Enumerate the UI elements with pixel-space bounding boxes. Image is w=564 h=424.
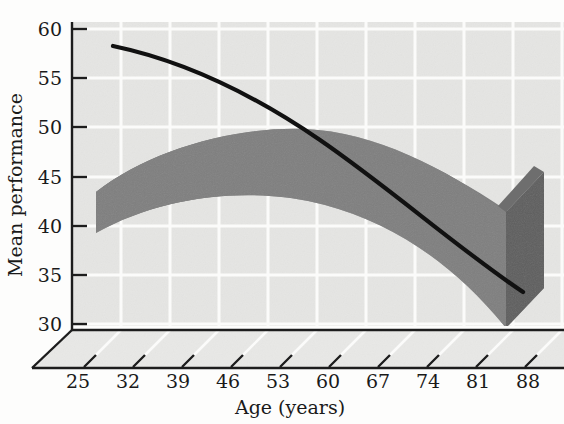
x-axis-title: Age (years) xyxy=(234,396,345,418)
y-tick-label: 50 xyxy=(38,116,62,138)
x-tick-labels: 25 32 39 46 53 60 67 74 81 88 xyxy=(66,370,540,392)
x-tick-label: 67 xyxy=(366,370,390,392)
x-tick-label: 74 xyxy=(416,370,440,392)
x-tick-label: 39 xyxy=(166,370,190,392)
floor-plane xyxy=(32,330,564,368)
y-tick-label: 40 xyxy=(38,215,62,237)
x-tick-label: 46 xyxy=(216,370,240,392)
y-tick-label: 30 xyxy=(38,313,62,335)
x-tick-label: 32 xyxy=(116,370,140,392)
y-tick-label: 55 xyxy=(38,67,62,89)
x-tick-label: 25 xyxy=(66,370,90,392)
chart-figure: 60 55 50 45 40 35 30 xyxy=(0,0,564,424)
y-tick-labels: 60 55 50 45 40 35 30 xyxy=(38,18,62,335)
y-tick-label: 35 xyxy=(38,264,62,286)
y-axis-title: Mean performance xyxy=(4,93,26,277)
y-tick-label: 45 xyxy=(38,166,62,188)
x-tick-label: 81 xyxy=(466,370,490,392)
x-tick-label: 88 xyxy=(516,370,540,392)
chart-canvas: 60 55 50 45 40 35 30 xyxy=(0,0,564,424)
x-tick-label: 60 xyxy=(316,370,340,392)
x-tick-label: 53 xyxy=(266,370,290,392)
y-tick-label: 60 xyxy=(38,18,62,40)
